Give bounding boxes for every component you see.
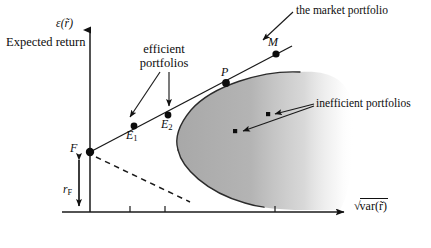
- point-inefficient-2: [233, 129, 237, 133]
- point-label-P: P: [221, 66, 228, 78]
- inefficient-portfolios-label: inefficient portfolios: [316, 98, 411, 110]
- point-label-F: F: [70, 142, 77, 154]
- point-F: [86, 148, 94, 156]
- point-inefficient-1: [266, 112, 270, 116]
- risk-free-rate-label: rF: [63, 184, 72, 197]
- point-P: [222, 79, 230, 87]
- point-label-E1-sub: 1: [133, 133, 137, 143]
- point-label-E2-sub: 2: [168, 122, 172, 132]
- point-label-E2: E2: [161, 118, 173, 132]
- dashed-line: [96, 157, 190, 202]
- x-axis-radicand: var(r̃): [360, 198, 388, 213]
- arrow-efficient-diagonal: [130, 72, 160, 117]
- risk-free-rate-sub: F: [67, 188, 72, 197]
- efficient-portfolios-label: efficient portfolios: [131, 42, 197, 70]
- x-axis-label: √var(r̃): [354, 200, 388, 212]
- market-portfolio-label: the market portfolio: [296, 5, 388, 17]
- point-label-M: M: [268, 36, 278, 48]
- point-label-E1: E1: [126, 129, 138, 143]
- expected-return-label: Expected return: [6, 36, 85, 49]
- point-M: [272, 50, 279, 57]
- y-axis-label: ε(r̃): [56, 18, 73, 30]
- x-axis-ticks: [130, 206, 275, 212]
